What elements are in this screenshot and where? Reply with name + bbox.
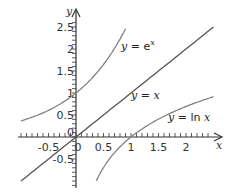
svg-text:0: 0 (67, 126, 74, 139)
svg-text:0: 0 (75, 141, 82, 154)
function-graph: x y -0.500.511.52-0.500.511.522.5 y = ex… (0, 0, 234, 194)
svg-text:1.5: 1.5 (57, 65, 75, 78)
svg-text:2.5: 2.5 (57, 21, 75, 34)
svg-text:1: 1 (67, 87, 74, 100)
axis-ticks (21, 23, 208, 186)
log-curve-label: y = ln x (167, 111, 211, 124)
svg-text:0.5: 0.5 (57, 109, 75, 122)
svg-text:2: 2 (183, 141, 190, 154)
tick-labels: -0.500.511.52-0.500.511.522.5 (38, 21, 190, 166)
identity-line (21, 27, 214, 181)
svg-text:1: 1 (128, 141, 135, 154)
x-axis-label: x (216, 139, 223, 152)
identity-line-label: y = x (130, 89, 160, 102)
svg-text:0.5: 0.5 (95, 141, 113, 154)
exp-curve-label: y = ex (120, 38, 155, 53)
y-axis-label: y (65, 5, 73, 18)
svg-text:2: 2 (67, 43, 74, 56)
svg-text:1.5: 1.5 (150, 141, 168, 154)
log-curve (96, 97, 213, 181)
svg-text:-0.5: -0.5 (53, 153, 74, 166)
